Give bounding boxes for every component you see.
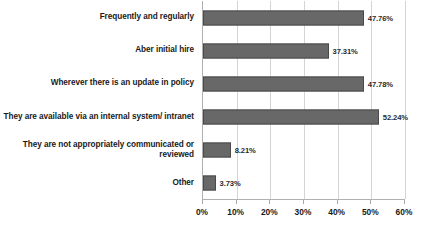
axis-tick: [370, 200, 371, 204]
axis-tick-label: 0%: [196, 207, 208, 217]
axis-tick-label: 50%: [362, 207, 379, 217]
bar-value-label: 37.31%: [333, 46, 358, 55]
bar-value-label: 47.78%: [368, 79, 393, 88]
horizontal-bar-chart: Frequently and regularlyAber initial hir…: [0, 0, 424, 229]
bar: [203, 76, 364, 91]
axis-tick: [303, 200, 304, 204]
bar-row: 37.31%: [203, 34, 406, 67]
bar: [203, 176, 216, 191]
axis-tick-label: 10%: [227, 207, 244, 217]
axis-tick: [269, 200, 270, 204]
category-label: They are available via an internal syste…: [0, 112, 194, 123]
bar-row: 52.24%: [203, 101, 406, 134]
bar-value-label: 3.73%: [220, 179, 241, 188]
x-axis: 0%10%20%30%40%50%60%: [202, 200, 405, 229]
bar: [203, 110, 379, 125]
category-label: They are not appropriately communicated …: [0, 140, 194, 161]
bar: [203, 43, 329, 58]
axis-tick: [337, 200, 338, 204]
bar-row: 47.78%: [203, 67, 406, 100]
category-label-column: Frequently and regularlyAber initial hir…: [0, 0, 198, 200]
bar-row: 47.76%: [203, 1, 406, 34]
axis-tick: [202, 200, 203, 204]
category-label: Other: [0, 178, 194, 189]
bar-value-label: 8.21%: [235, 146, 256, 155]
bar: [203, 143, 231, 158]
bar-row: 8.21%: [203, 134, 406, 167]
axis-tick-label: 60%: [396, 207, 413, 217]
category-label: Frequently and regularly: [0, 12, 194, 23]
axis-tick-label: 40%: [328, 207, 345, 217]
bar: [203, 10, 364, 25]
plot-area: 47.76%37.31%47.78%52.24%8.21%3.73%: [202, 1, 405, 200]
axis-tick-label: 30%: [295, 207, 312, 217]
axis-tick: [404, 200, 405, 204]
category-label: Aber initial hire: [0, 45, 194, 56]
bar-value-label: 47.76%: [368, 13, 393, 22]
bar-row: 3.73%: [203, 167, 406, 200]
axis-tick-label: 20%: [261, 207, 278, 217]
bar-value-label: 52.24%: [383, 113, 408, 122]
category-label: Wherever there is an update in policy: [0, 78, 194, 89]
axis-tick: [236, 200, 237, 204]
